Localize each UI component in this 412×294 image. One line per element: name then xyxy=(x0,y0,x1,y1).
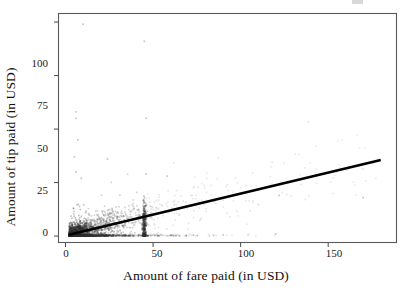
scatter-point xyxy=(145,228,147,230)
scatter-point xyxy=(184,235,186,237)
scatter-point xyxy=(150,217,152,219)
scatter-point xyxy=(100,224,102,226)
scatter-point xyxy=(104,235,106,237)
scatter-point xyxy=(139,222,141,224)
scatter-point xyxy=(157,235,159,237)
scatter-point xyxy=(153,219,155,221)
scatter-point xyxy=(117,228,119,230)
scatter-point xyxy=(237,182,239,184)
scatter-point xyxy=(111,212,113,214)
scatter-point xyxy=(172,225,174,227)
scatter-point xyxy=(111,221,113,223)
scatter-point xyxy=(135,214,137,216)
scatter-point xyxy=(162,215,164,217)
x-tick-label-0: 0 xyxy=(46,247,86,259)
scatter-point xyxy=(89,226,91,228)
scatter-point xyxy=(341,139,343,141)
scatter-point xyxy=(222,206,224,208)
y-tick-label-0: 0 xyxy=(8,226,48,238)
scatter-point xyxy=(215,202,217,204)
scatter-point xyxy=(88,208,90,210)
scatter-point xyxy=(90,224,92,226)
scatter-point xyxy=(144,223,146,225)
scatter-point xyxy=(154,201,156,203)
scatter-point xyxy=(158,227,160,229)
scatter-point xyxy=(142,228,144,230)
scatter-point xyxy=(137,214,139,216)
scatter-point xyxy=(87,222,89,224)
scatter-point xyxy=(270,166,272,168)
scatter-point xyxy=(125,235,127,237)
scatter-point xyxy=(118,206,120,208)
scatter-point xyxy=(128,227,130,229)
scatter-point xyxy=(145,173,147,175)
scatter-point xyxy=(173,201,175,203)
scatter-point xyxy=(174,204,176,206)
x-tick-label-150: 150 xyxy=(314,247,354,259)
scatter-point xyxy=(174,219,176,221)
scatter-point xyxy=(96,223,98,225)
scatter-point xyxy=(145,118,147,120)
scatter-point xyxy=(235,177,237,179)
scatter-point xyxy=(201,217,203,219)
scatter-point xyxy=(258,204,260,206)
scatter-point xyxy=(191,235,193,237)
scatter-point xyxy=(103,219,105,221)
scatter-point xyxy=(150,212,152,214)
scatter-point xyxy=(111,182,113,184)
scatter-point xyxy=(75,222,77,224)
scatter-point xyxy=(249,210,251,212)
scatter-point xyxy=(165,235,167,237)
scatter-point xyxy=(130,235,132,237)
scatter-point xyxy=(118,226,120,228)
scatter-point xyxy=(145,235,147,237)
scatter-point xyxy=(166,203,168,205)
scatter-point xyxy=(82,23,84,25)
scatter-point xyxy=(99,221,101,223)
x-tick-label-50: 50 xyxy=(137,247,177,259)
scatter-point xyxy=(90,219,92,221)
scatter-point xyxy=(271,162,273,164)
scatter-point xyxy=(73,215,75,217)
scatter-point xyxy=(205,208,207,210)
scatter-point xyxy=(174,195,176,197)
scatter-point xyxy=(105,213,107,215)
scatter-point xyxy=(114,235,116,237)
scatter-point xyxy=(176,204,178,206)
scatter-point xyxy=(309,162,311,164)
scatter-point xyxy=(193,210,195,212)
scatter-point xyxy=(286,194,288,196)
scatter-point xyxy=(182,200,184,202)
scatter-point xyxy=(282,192,284,194)
scatter-point xyxy=(138,235,140,237)
scatter-point xyxy=(133,225,135,227)
scatter-point xyxy=(359,147,361,149)
scatter-point xyxy=(124,211,126,213)
scatter-point xyxy=(130,231,132,233)
scatter-point xyxy=(150,235,152,237)
scatter-point xyxy=(198,200,200,202)
scatter-point xyxy=(300,184,302,186)
scatter-point xyxy=(68,223,70,225)
scatter-point xyxy=(227,190,229,192)
scatter-point xyxy=(190,195,192,197)
scatter-point xyxy=(197,187,199,189)
scatter-point xyxy=(104,232,106,234)
scatter-point xyxy=(195,195,197,197)
scatter-point xyxy=(112,215,114,217)
scatter-point xyxy=(189,233,191,235)
scatter-point xyxy=(157,218,159,220)
scatter-point xyxy=(122,232,124,234)
scatter-point xyxy=(286,178,288,180)
scatter-point xyxy=(166,228,168,230)
scatter-point xyxy=(119,230,121,232)
scatter-point xyxy=(86,225,88,227)
scatter-point xyxy=(356,194,358,196)
scatter-point xyxy=(362,197,364,199)
scatter-point xyxy=(83,204,85,206)
scatter-point xyxy=(119,194,121,196)
scatter-point xyxy=(222,234,224,236)
scatter-point xyxy=(146,223,148,225)
scatter-point xyxy=(106,217,108,219)
scatter-point xyxy=(167,201,169,203)
